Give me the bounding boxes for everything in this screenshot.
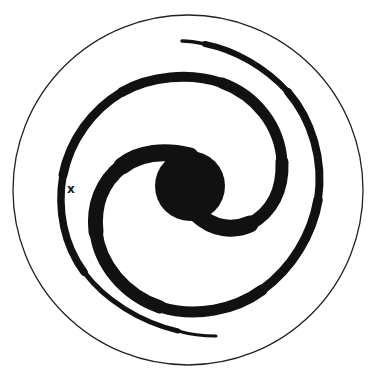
galaxy-diagram: x	[0, 0, 379, 381]
galaxy-svg	[0, 0, 379, 381]
sun-position-marker: x	[67, 183, 75, 195]
